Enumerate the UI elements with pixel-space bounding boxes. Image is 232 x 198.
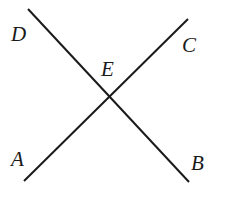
line-ac bbox=[24, 19, 188, 181]
label-e: E bbox=[100, 57, 114, 81]
label-d: D bbox=[10, 22, 26, 46]
label-c: C bbox=[182, 33, 197, 57]
geometry-diagram: D C E A B bbox=[0, 0, 232, 198]
label-b: B bbox=[191, 151, 204, 175]
label-a: A bbox=[9, 147, 24, 171]
line-db bbox=[28, 9, 189, 182]
diagram-svg: D C E A B bbox=[0, 0, 232, 198]
